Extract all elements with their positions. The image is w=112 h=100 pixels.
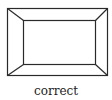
bevel-line-top-left <box>8 9 24 21</box>
bevel-line-bottom-left <box>8 65 24 76</box>
inner-rectangle <box>24 21 96 65</box>
diagram-caption: correct <box>0 84 112 98</box>
bevel-line-bottom-right <box>96 65 108 76</box>
bevel-line-top-right <box>96 9 108 21</box>
